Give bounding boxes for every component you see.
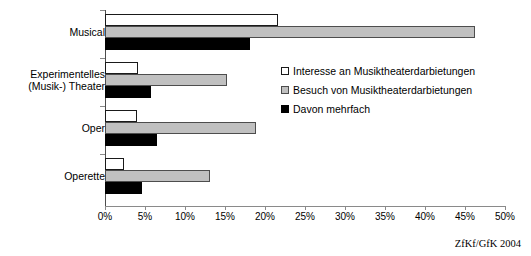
x-axis-tick bbox=[385, 206, 386, 210]
y-axis-tick bbox=[100, 154, 105, 155]
bar bbox=[105, 134, 157, 146]
bar bbox=[105, 86, 151, 98]
x-axis-tick-label: 25% bbox=[285, 211, 325, 222]
legend-label: Besuch von Musiktheaterdarbietungen bbox=[293, 84, 472, 96]
legend-swatch-icon bbox=[281, 86, 289, 94]
bar bbox=[105, 26, 475, 38]
x-axis-tick bbox=[465, 206, 466, 210]
x-axis-tick bbox=[185, 206, 186, 210]
x-axis-tick-label: 20% bbox=[245, 211, 285, 222]
chart-legend: Interesse an MusiktheaterdarbietungenBes… bbox=[281, 62, 475, 119]
bar bbox=[105, 62, 138, 74]
legend-swatch-icon bbox=[281, 67, 289, 75]
x-axis-tick bbox=[505, 206, 506, 210]
y-axis-tick bbox=[100, 58, 105, 59]
x-axis-tick-label: 0% bbox=[85, 211, 125, 222]
bar bbox=[105, 158, 124, 170]
x-axis-tick bbox=[225, 206, 226, 210]
chart-container: MusicalExperimentelles (Musik-) TheaterO… bbox=[0, 0, 531, 256]
legend-item: Interesse an Musiktheaterdarbietungen bbox=[281, 62, 475, 79]
x-axis-tick-label: 30% bbox=[325, 211, 365, 222]
legend-label: Interesse an Musiktheaterdarbietungen bbox=[293, 65, 475, 77]
x-axis-tick bbox=[425, 206, 426, 210]
bar bbox=[105, 74, 227, 86]
category-label: Musical bbox=[5, 26, 105, 39]
bar bbox=[105, 122, 256, 134]
x-axis-tick-label: 15% bbox=[205, 211, 245, 222]
bar bbox=[105, 38, 250, 50]
x-axis-tick-label: 50% bbox=[485, 211, 525, 222]
x-axis-tick bbox=[265, 206, 266, 210]
bar bbox=[105, 110, 137, 122]
x-axis-tick-label: 40% bbox=[405, 211, 445, 222]
legend-item: Besuch von Musiktheaterdarbietungen bbox=[281, 81, 475, 98]
legend-swatch-icon bbox=[281, 105, 289, 113]
source-credit: ZfKf/GfK 2004 bbox=[455, 238, 521, 249]
x-axis-tick-label: 10% bbox=[165, 211, 205, 222]
x-axis-tick-label: 45% bbox=[445, 211, 485, 222]
y-axis-tick bbox=[100, 106, 105, 107]
legend-label: Davon mehrfach bbox=[293, 103, 370, 115]
category-label: Experimentelles (Musik-) Theater bbox=[5, 68, 105, 93]
x-axis-tick bbox=[345, 206, 346, 210]
x-axis-tick bbox=[305, 206, 306, 210]
category-label: Oper bbox=[5, 122, 105, 135]
x-axis-tick bbox=[145, 206, 146, 210]
bar bbox=[105, 170, 210, 182]
bar bbox=[105, 14, 278, 26]
x-axis-tick-label: 5% bbox=[125, 211, 165, 222]
category-label: Operette bbox=[5, 170, 105, 183]
bar bbox=[105, 182, 142, 194]
x-axis-tick-label: 35% bbox=[365, 211, 405, 222]
x-axis-tick bbox=[105, 206, 106, 210]
y-axis-tick bbox=[100, 10, 105, 11]
legend-item: Davon mehrfach bbox=[281, 100, 475, 117]
